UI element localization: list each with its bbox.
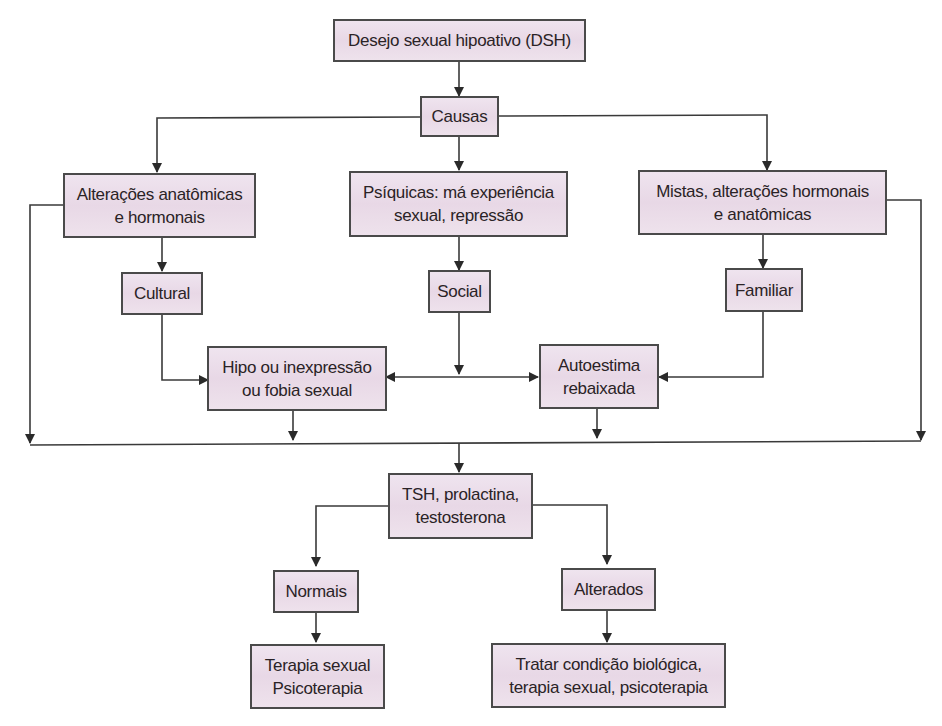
node-alterados: Alterados [561, 568, 656, 611]
node-anatomicas-line-2: e hormonais [114, 206, 204, 229]
node-dsh: Desejo sexual hipoativo (DSH) [333, 19, 586, 62]
node-hipo-line-1: Hipo ou inexpressão [222, 356, 371, 379]
node-mistas-line-1: Mistas, alterações hormonais [656, 180, 869, 203]
node-psiquicas-line-2: sexual, repressão [394, 204, 523, 227]
node-psiquicas-line-1: Psíquicas: má experiência [363, 181, 554, 204]
flowchart-canvas: Desejo sexual hipoativo (DSH) Causas Alt… [0, 0, 942, 726]
edge-mistas-side [886, 200, 921, 440]
node-normais: Normais [273, 570, 359, 613]
node-tratar: Tratar condição biológica, terapia sexua… [491, 643, 726, 708]
edge-cultural-hipo [162, 314, 208, 380]
node-social: Social [428, 270, 491, 313]
node-anatomicas-line-1: Alterações anatômicas [77, 183, 243, 206]
node-familiar-line-1: Familiar [735, 279, 793, 302]
edge-familiar-autoestima [659, 312, 763, 377]
node-anatomicas: Alterações anatômicas e hormonais [63, 173, 256, 238]
edge-anatomicas-side [30, 205, 64, 443]
node-autoestima-line-1: Autoestima [558, 354, 640, 377]
node-terapia: Terapia sexual Psicoterapia [250, 644, 385, 709]
node-familiar: Familiar [725, 268, 803, 312]
node-exames-line-2: testosterona [416, 506, 506, 529]
node-causas-line-1: Causas [432, 105, 488, 128]
edge-collector [30, 441, 921, 445]
node-cultural: Cultural [121, 272, 203, 315]
node-exames-line-1: TSH, prolactina, [402, 483, 519, 506]
edge-exames-alterados [532, 505, 607, 564]
node-social-line-1: Social [437, 280, 482, 303]
node-mistas-line-2: e anatômicas [714, 203, 812, 226]
edge-causas-anatomicas [157, 117, 420, 172]
node-autoestima: Autoestima rebaixada [539, 344, 659, 409]
node-autoestima-line-2: rebaixada [563, 377, 635, 400]
node-alterados-line-1: Alterados [574, 578, 643, 601]
node-tratar-line-1: Tratar condição biológica, [515, 653, 701, 676]
edge-exames-normais [316, 506, 389, 566]
node-terapia-line-1: Terapia sexual [265, 654, 370, 677]
node-hipo-line-2: ou fobia sexual [242, 379, 352, 402]
node-normais-line-1: Normais [285, 580, 346, 603]
node-cultural-line-1: Cultural [134, 282, 190, 305]
node-tratar-line-2: terapia sexual, psicoterapia [509, 676, 708, 699]
node-psiquicas: Psíquicas: má experiência sexual, repres… [349, 171, 568, 237]
node-dsh-line-1: Desejo sexual hipoativo (DSH) [348, 29, 571, 52]
node-exames: TSH, prolactina, testosterona [388, 473, 533, 539]
node-causas: Causas [420, 96, 499, 137]
edge-causas-mistas [499, 115, 767, 170]
node-terapia-line-2: Psicoterapia [273, 677, 363, 700]
node-hipo: Hipo ou inexpressão ou fobia sexual [207, 346, 387, 411]
node-mistas: Mistas, alterações hormonais e anatômica… [638, 170, 887, 235]
